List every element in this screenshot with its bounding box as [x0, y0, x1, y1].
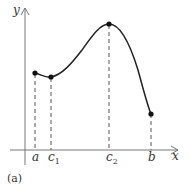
tick-label-a: a: [32, 150, 39, 164]
point-c2: [106, 21, 111, 26]
figure-caption: (a): [7, 172, 22, 185]
point-a: [32, 70, 37, 75]
tick-label-b: b: [148, 150, 156, 164]
point-c1: [48, 74, 53, 79]
axes: [10, 8, 178, 165]
tick-label-c2: c2: [106, 150, 118, 166]
dashed-guides: [35, 25, 151, 150]
y-axis-label: y: [12, 3, 20, 17]
function-graph: y x a c1 c2 b (a): [0, 0, 191, 195]
tick-label-c1: c1: [48, 150, 60, 166]
point-b: [148, 111, 153, 116]
function-curve: [35, 24, 151, 114]
x-axis-label: x: [172, 149, 179, 163]
